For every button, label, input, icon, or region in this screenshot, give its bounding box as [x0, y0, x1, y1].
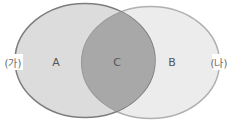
region-c-label: C — [113, 56, 121, 69]
region-a-label: A — [52, 56, 60, 69]
set-right-outer-label: (나) — [211, 55, 228, 70]
set-left-outer-label: (가) — [5, 55, 22, 70]
region-b-label: B — [168, 56, 176, 69]
